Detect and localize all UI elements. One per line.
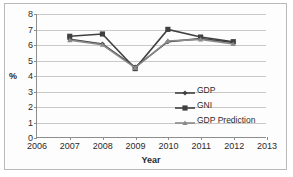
x-tick-mark xyxy=(168,137,169,140)
y-tick-label: 2 xyxy=(28,103,33,112)
legend-label: GNI xyxy=(197,101,212,110)
data-point-marker xyxy=(182,90,187,95)
legend-marker-triangle-icon xyxy=(174,115,196,127)
legend-marker-diamond-icon xyxy=(174,85,196,97)
y-tick-label: 1 xyxy=(28,118,33,127)
data-point-marker xyxy=(165,27,170,32)
chart-legend: GDPGNIGDP Prediction xyxy=(174,83,266,128)
y-axis-title: % xyxy=(9,72,17,81)
x-tick-mark xyxy=(234,137,235,140)
y-tick-mark xyxy=(34,138,37,139)
y-tick-label: 4 xyxy=(28,72,33,81)
legend-label: GDP xyxy=(197,86,215,95)
x-axis-title: Year xyxy=(36,156,266,165)
x-tick-mark xyxy=(103,137,104,140)
data-point-marker xyxy=(100,31,105,36)
x-tick-mark xyxy=(201,137,202,140)
x-tick-mark xyxy=(267,137,268,140)
x-tick-label: 2008 xyxy=(93,142,113,151)
legend-marker-square-icon xyxy=(174,100,196,112)
legend-item-gdp[interactable]: GDP xyxy=(174,83,266,98)
x-tick-label: 2012 xyxy=(224,142,244,151)
y-tick-label: 7 xyxy=(28,25,33,34)
series-line xyxy=(70,39,234,67)
x-tick-label: 2009 xyxy=(126,142,146,151)
y-tick-label: 5 xyxy=(28,56,33,65)
legend-item-gdp-prediction[interactable]: GDP Prediction xyxy=(174,113,266,128)
x-tick-label: 2010 xyxy=(158,142,178,151)
data-point-marker xyxy=(182,105,187,110)
x-tick-mark xyxy=(70,137,71,140)
y-tick-label: 3 xyxy=(28,87,33,96)
x-tick-label: 2006 xyxy=(27,142,47,151)
x-tick-mark xyxy=(136,137,137,140)
y-tick-label: 6 xyxy=(28,41,33,50)
series-line xyxy=(70,29,234,68)
x-tick-label: 2007 xyxy=(60,142,80,151)
legend-item-gni[interactable]: GNI xyxy=(174,98,266,113)
x-tick-label: 2011 xyxy=(192,142,211,151)
legend-label: GDP Prediction xyxy=(197,116,255,125)
y-tick-label: 8 xyxy=(28,10,33,19)
x-tick-label: 2013 xyxy=(257,142,277,151)
chart-figure: % Year 012345678 20062007200820092010201… xyxy=(0,0,293,177)
